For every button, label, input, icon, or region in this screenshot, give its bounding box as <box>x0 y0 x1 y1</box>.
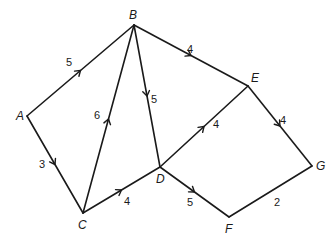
edge-weight-label: 3 <box>39 158 45 170</box>
edge-weight-label: 6 <box>94 109 100 121</box>
arrows-layer <box>50 50 280 195</box>
edge-weight-label: 4 <box>280 114 286 126</box>
node-label-c: C <box>78 218 87 232</box>
node-label-e: E <box>251 71 260 85</box>
edge-weight-label: 5 <box>66 56 72 68</box>
network-diagram: 5365444542 ABCDEFG <box>0 0 335 240</box>
node-label-a: A <box>15 109 24 123</box>
node-label-f: F <box>225 222 233 236</box>
edge-weight-label: 5 <box>151 93 157 105</box>
node-label-d: D <box>156 172 165 186</box>
edge-weight-label: 4 <box>187 43 193 55</box>
edge-weight-label: 4 <box>213 118 219 130</box>
edge-weight-label: 2 <box>274 196 280 208</box>
edge-weight-label: 5 <box>187 196 193 208</box>
node-label-g: G <box>316 159 325 173</box>
edges-layer <box>27 25 312 217</box>
edge-weight-label: 4 <box>124 195 130 207</box>
node-label-b: B <box>129 8 137 22</box>
edge-f-g <box>229 166 312 217</box>
